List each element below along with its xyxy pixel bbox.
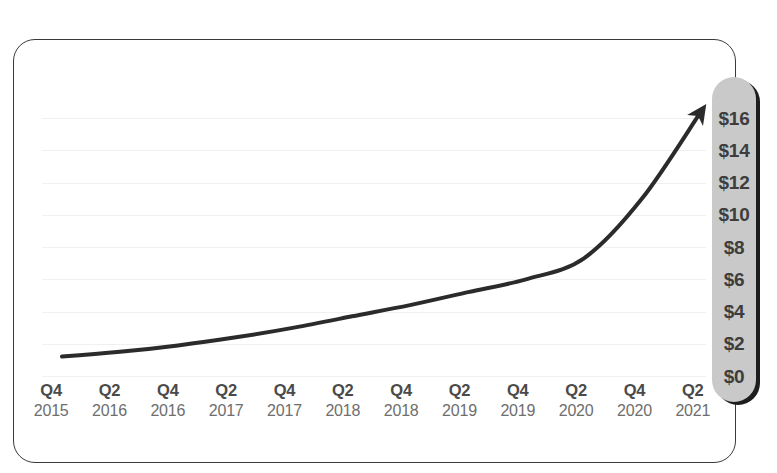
x-tick-year-label: 2016 xyxy=(80,400,138,422)
x-tick-quarter-label: Q2 xyxy=(80,381,138,400)
y-tick-label-usd-10: $10 xyxy=(712,205,756,224)
x-tick-quarter-label: Q2 xyxy=(314,381,372,400)
gridline-usd-14 xyxy=(42,150,706,151)
x-tick-year-label: 2019 xyxy=(489,400,547,422)
x-tick-q4-2017: Q42017 xyxy=(255,381,313,433)
x-tick-year-label: 2018 xyxy=(314,400,372,422)
x-tick-quarter-label: Q4 xyxy=(22,381,80,400)
x-tick-quarter-label: Q2 xyxy=(197,381,255,400)
y-tick-label-usd-16: $16 xyxy=(712,109,756,128)
x-axis-labels: Q42015Q22016Q42016Q22017Q42017Q22018Q420… xyxy=(22,381,722,433)
x-tick-quarter-label: Q4 xyxy=(372,381,430,400)
gridline-usd-0 xyxy=(42,376,706,377)
x-tick-year-label: 2017 xyxy=(197,400,255,422)
x-tick-q2-2020: Q22020 xyxy=(547,381,605,433)
x-tick-year-label: 2018 xyxy=(372,400,430,422)
y-tick-label-usd-2: $2 xyxy=(712,334,756,353)
x-tick-quarter-label: Q2 xyxy=(430,381,488,400)
y-tick-label-usd-14: $14 xyxy=(712,141,756,160)
x-tick-q4-2019: Q42019 xyxy=(489,381,547,433)
x-tick-quarter-label: Q2 xyxy=(664,381,722,400)
x-tick-quarter-label: Q4 xyxy=(139,381,197,400)
x-tick-year-label: 2020 xyxy=(605,400,663,422)
gridline-usd-6 xyxy=(42,279,706,280)
gridline-usd-4 xyxy=(42,312,706,313)
x-tick-year-label: 2015 xyxy=(22,400,80,422)
x-tick-q4-2018: Q42018 xyxy=(372,381,430,433)
x-tick-year-label: 2019 xyxy=(430,400,488,422)
gridline-usd-10 xyxy=(42,215,706,216)
y-tick-label-usd-12: $12 xyxy=(712,173,756,192)
x-tick-year-label: 2020 xyxy=(547,400,605,422)
gridline-usd-12 xyxy=(42,183,706,184)
gridline-usd-16 xyxy=(42,118,706,119)
x-tick-quarter-label: Q4 xyxy=(605,381,663,400)
x-tick-quarter-label: Q4 xyxy=(489,381,547,400)
x-tick-q4-2016: Q42016 xyxy=(139,381,197,433)
y-tick-label-usd-4: $4 xyxy=(712,302,756,321)
x-tick-q2-2018: Q22018 xyxy=(314,381,372,433)
gridline-usd-8 xyxy=(42,247,706,248)
x-tick-year-label: 2017 xyxy=(255,400,313,422)
x-tick-q2-2017: Q22017 xyxy=(197,381,255,433)
x-tick-quarter-label: Q2 xyxy=(547,381,605,400)
gridline-usd-2 xyxy=(42,344,706,345)
y-axis-scale-pill: $16$14$12$10$8$6$4$2$0 xyxy=(712,77,756,402)
y-tick-label-usd-6: $6 xyxy=(712,270,756,289)
x-tick-year-label: 2021 xyxy=(664,400,722,422)
x-tick-q4-2015: Q42015 xyxy=(22,381,80,433)
x-tick-quarter-label: Q4 xyxy=(255,381,313,400)
x-tick-q2-2016: Q22016 xyxy=(80,381,138,433)
x-tick-year-label: 2016 xyxy=(139,400,197,422)
y-tick-label-usd-8: $8 xyxy=(712,238,756,257)
x-tick-q2-2021: Q22021 xyxy=(664,381,722,433)
x-tick-q4-2020: Q42020 xyxy=(605,381,663,433)
x-tick-q2-2019: Q22019 xyxy=(430,381,488,433)
